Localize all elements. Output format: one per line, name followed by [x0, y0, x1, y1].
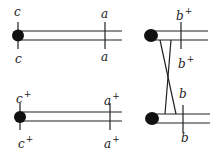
- label-b-top: b: [179, 88, 187, 100]
- label-a-plus-top: a+: [104, 92, 120, 107]
- label-c-top: c: [14, 6, 21, 18]
- centromere-icon: [145, 112, 159, 125]
- label-c-bottom: c: [15, 53, 22, 65]
- centromere-icon: [14, 111, 26, 123]
- label-b-plus-top: b+: [176, 7, 192, 22]
- chromosome-top-left: [18, 22, 122, 49]
- label-a-plus-bottom: a+: [104, 135, 120, 150]
- chromosome-right-top: [152, 22, 208, 49]
- chromosome-diagram: [0, 0, 223, 153]
- centromere-icon: [144, 29, 158, 42]
- label-a-bottom: a: [101, 51, 108, 63]
- crossover-lines: [160, 40, 176, 114]
- centromere-icon: [12, 30, 24, 42]
- label-c-plus-bottom: c+: [18, 135, 33, 150]
- label-c-plus-top: c+: [16, 90, 31, 105]
- label-b-bottom: b: [181, 132, 189, 144]
- label-b-plus-bottom: b+: [178, 55, 194, 70]
- label-a-top: a: [101, 8, 108, 20]
- chromosome-right-bottom: [153, 105, 210, 132]
